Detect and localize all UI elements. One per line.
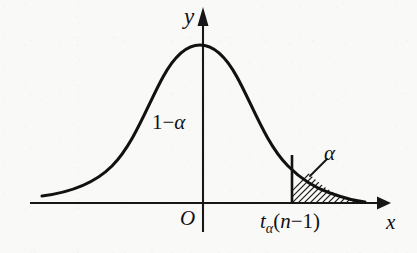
quantile-paren-close: ): [313, 209, 320, 233]
x-axis-label: x: [385, 210, 396, 234]
quantile-arg-minus-one: −1: [291, 209, 313, 233]
quantile-arg-variable: n: [280, 209, 291, 233]
confidence-level-label: 1−α: [152, 110, 186, 134]
y-axis-label: y: [182, 4, 195, 29]
critical-value-label: tα(n−1): [260, 209, 320, 236]
figure-canvas: y x O 1−α α tα(n−1): [0, 0, 417, 253]
x-axis-arrowhead: [377, 197, 391, 210]
density-plot: y x O 1−α α tα(n−1): [0, 0, 417, 253]
confidence-prefix-text: 1−: [152, 110, 174, 134]
origin-label: O: [180, 206, 195, 230]
y-axis-arrowhead: [198, 7, 209, 26]
confidence-alpha-symbol: α: [174, 110, 186, 134]
tail-area-alpha-label: α: [324, 141, 336, 165]
rejection-region-hatching: [268, 167, 412, 215]
quantile-paren-open: (: [273, 209, 280, 233]
